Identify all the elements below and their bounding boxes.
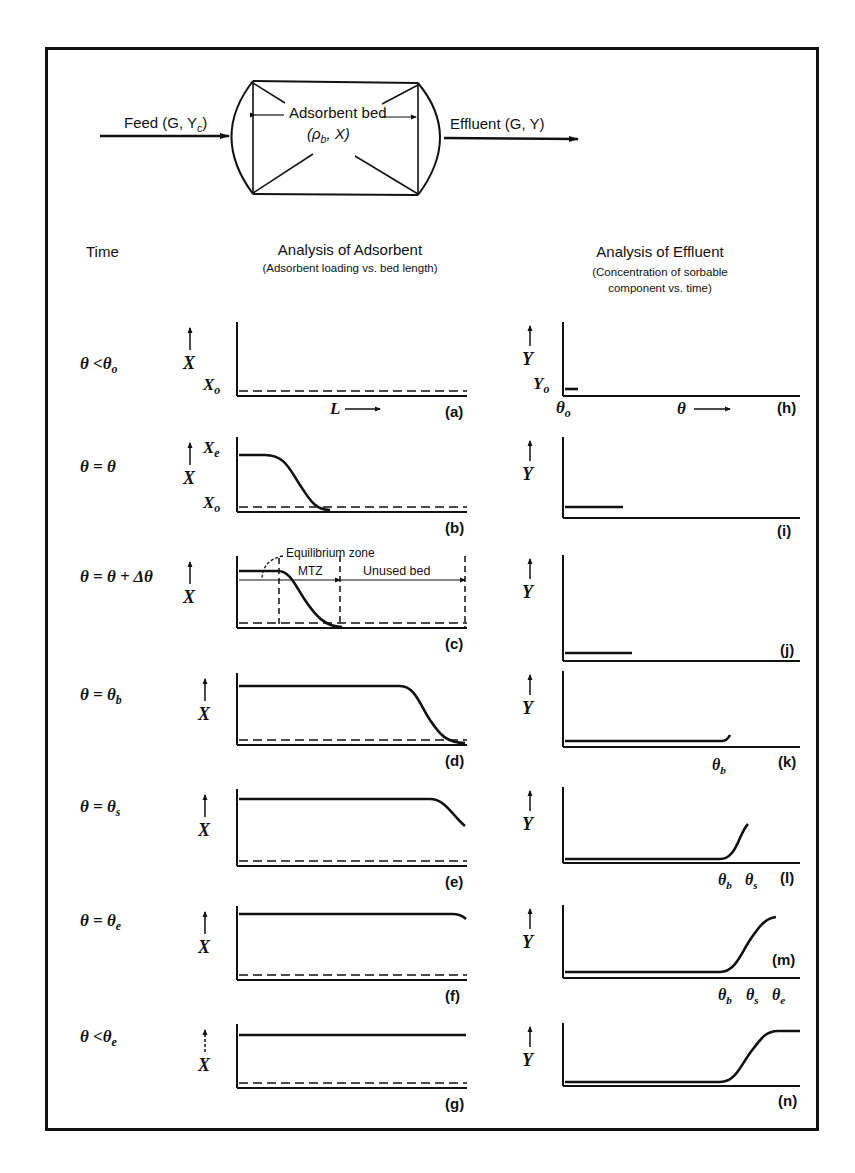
- time-condition-label: θ = θ: [80, 458, 116, 479]
- vessel-left-head: [232, 81, 254, 194]
- equilibrium-zone-label: Equilibrium zone: [286, 547, 375, 559]
- x-axis-label: X: [198, 821, 210, 839]
- y-axis-label: Y: [522, 699, 533, 717]
- effluent-header: Analysis of Effluent: [570, 244, 750, 259]
- effluent-arrow: [444, 138, 578, 139]
- x-axis-label: X: [183, 588, 195, 606]
- y-axis-label: Y: [522, 583, 533, 601]
- panels: [190, 322, 800, 1088]
- theta-mark-label: θb: [718, 987, 732, 1006]
- y-axis-label: Y: [522, 1051, 533, 1069]
- adsorbent-panel-b: [190, 437, 467, 512]
- panel-tag: (k): [778, 754, 796, 769]
- effluent-label: Effluent (G, Y): [450, 116, 545, 131]
- x-axis-label: X: [198, 938, 210, 956]
- effluent-panel-h: [530, 322, 800, 396]
- effluent-panel-m: [530, 905, 800, 978]
- theta-mark-label: θs: [745, 872, 758, 891]
- x0-label: Xo: [203, 376, 220, 397]
- time-condition-label: θ = θ + Δθ: [80, 568, 153, 589]
- adsorbent-panel-f: [205, 906, 467, 980]
- effluent-panel-j: [530, 555, 800, 661]
- panel-tag: (a): [445, 404, 463, 419]
- mtz-annotations: [239, 556, 465, 628]
- effluent-subheader-2: component vs. time): [570, 283, 750, 295]
- effluent-panel-n: [530, 1023, 800, 1086]
- time-condition-label: θ <θe: [80, 1028, 117, 1049]
- panel-tag: (i): [777, 523, 791, 538]
- adsorbent-panel-a: [190, 322, 467, 396]
- time-condition-label: θ = θb: [80, 686, 122, 707]
- theta-mark-label: θs: [746, 987, 759, 1006]
- adsorbent-header: Analysis of Adsorbent: [210, 242, 490, 257]
- effluent-panel-i: [530, 437, 800, 518]
- unused-bed-label: Unused bed: [363, 565, 430, 578]
- panel-tag: (f): [445, 988, 460, 1003]
- effluent-subheader-1: (Concentration of sorbable: [570, 267, 750, 279]
- effluent-panel-k: [530, 671, 800, 747]
- time-condition-label: θ = θs: [80, 798, 120, 819]
- panel-tag: (m): [772, 952, 795, 967]
- vessel-right-head: [418, 83, 440, 195]
- x-axis-label: X: [198, 705, 210, 723]
- time-condition-label: θ = θe: [80, 912, 121, 933]
- bed-label: Adsorbent bed: [289, 105, 387, 120]
- theta-mark-label: θb: [718, 872, 732, 891]
- bed-length-axis-label: L: [330, 400, 340, 417]
- theta-mark-label: θb: [712, 757, 726, 776]
- adsorbent-panel-g: [205, 1024, 467, 1088]
- y-axis-label: Y: [522, 815, 533, 833]
- effluent-panel-l: [530, 787, 800, 863]
- panel-tag: (b): [445, 520, 464, 535]
- panel-tag: (g): [445, 1096, 464, 1111]
- theta0-label: θo: [556, 399, 571, 420]
- theta-mark-label: θe: [772, 987, 785, 1006]
- time-header: Time: [86, 244, 119, 259]
- panel-tag: (d): [445, 753, 464, 768]
- x-axis-label: X: [198, 1056, 210, 1074]
- x0-label: Xo: [203, 494, 220, 515]
- panel-tag: (j): [780, 642, 794, 657]
- x-axis-label: X: [183, 469, 195, 487]
- panel-tag: (h): [777, 400, 796, 415]
- panel-tag: (l): [780, 870, 794, 885]
- panel-tag: (e): [445, 874, 463, 889]
- panel-tag: (c): [445, 636, 463, 651]
- adsorbent-subheader: (Adsorbent loading vs. bed length): [210, 263, 490, 275]
- y-axis-label: Y: [522, 465, 533, 483]
- xe-label: Xe: [203, 439, 220, 460]
- y-axis-label: Y: [522, 350, 533, 368]
- y0-label: Yo: [533, 375, 549, 396]
- bed-properties-label: (ρb, X): [307, 126, 350, 144]
- mtz-label: MTZ: [298, 565, 323, 577]
- x-axis-label: X: [183, 354, 195, 372]
- time-condition-label: θ <θo: [80, 355, 118, 376]
- time-axis-label: θ: [677, 400, 686, 417]
- adsorbent-panel-d: [205, 673, 467, 745]
- feed-label: Feed (G, Yc): [124, 115, 207, 133]
- adsorbent-panel-e: [205, 789, 467, 866]
- panel-tag: (n): [778, 1093, 797, 1108]
- y-axis-label: Y: [522, 933, 533, 951]
